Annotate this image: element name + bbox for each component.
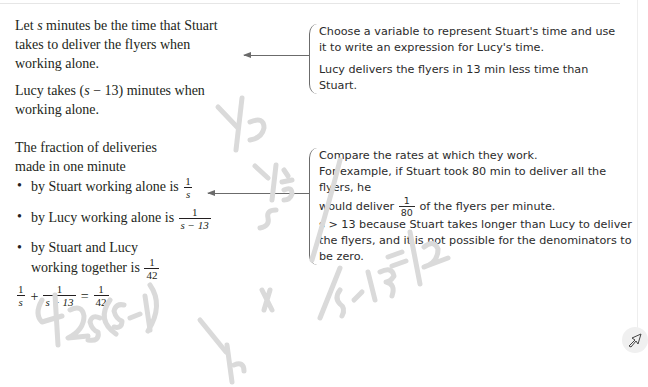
rate-list: by Stuart working alone is 1s by Lucy wo… (15, 176, 255, 281)
worked-solution-step-1: Let s minutes be the time that Stuart ta… (15, 16, 240, 119)
header-divider (0, 3, 620, 4)
fraction: 142 (144, 257, 159, 281)
worked-solution-step-2: The fraction of deliveries made in one m… (15, 138, 255, 308)
pointer-tool-button[interactable] (622, 327, 648, 353)
brace-icon (309, 24, 318, 94)
fraction: 1s (183, 176, 193, 200)
fraction: 180 (399, 196, 415, 217)
fraction-intro: The fraction of deliveries made in one m… (15, 138, 185, 176)
list-item-stuart-rate: by Stuart working alone is 1s (15, 176, 255, 200)
pointer-arrow-icon (627, 332, 643, 348)
fraction: 142 (94, 284, 109, 308)
list-item-lucy-rate: by Lucy working alone is 1s − 13 (15, 207, 255, 231)
fraction: 1s − 13 (179, 207, 211, 231)
arrow-note-2 (208, 193, 310, 194)
margin-note-2: Compare the rates at which they work. Fo… (309, 148, 639, 265)
fraction: 1s − 13 (43, 284, 75, 308)
lucy-expression: Lucy takes (s − 13) minutes when working… (15, 81, 240, 119)
margin-note-1: Choose a variable to represent Stuart's … (309, 24, 619, 94)
rate-equation: 1s + 1s − 13 = 142 (15, 284, 255, 308)
list-item-combined-rate: by Stuart and Lucy working together is 1… (15, 238, 181, 281)
variable-definition: Let s minutes be the time that Stuart ta… (15, 16, 240, 73)
arrow-note-1 (244, 55, 310, 56)
fraction: 1s (16, 284, 26, 308)
brace-icon (309, 148, 318, 265)
